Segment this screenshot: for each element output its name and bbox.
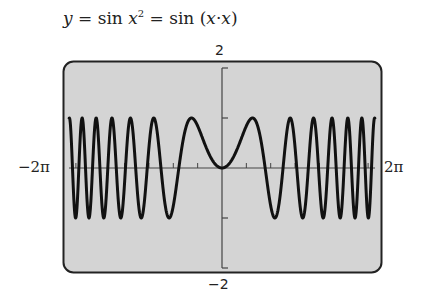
calculator-screen <box>0 0 424 303</box>
